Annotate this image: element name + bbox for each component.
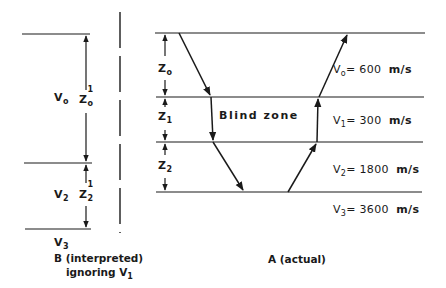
thickness-label-z2-prime: Z12 [79,188,94,203]
velocity-label-layer-3: V3= 3600 m/s [333,203,419,218]
velocity-label-v3: V3 [54,236,69,251]
blind-zone-label: Blind zone [219,109,299,122]
thickness-label-z0: Zo [158,62,172,77]
velocity-label-layer-0: Vo= 600 m/s [333,63,412,78]
velocity-label-layer-1: V1= 300 m/s [333,114,412,129]
caption-ignoring: ignoring V1 [66,265,133,284]
caption-actual: A (actual) [268,252,326,266]
caption-interpreted: B (interpreted) [54,251,143,265]
velocity-label-v0: Vo [54,91,69,106]
velocity-label-layer-2: V2= 1800 m/s [333,163,419,178]
velocity-label-v2: V2 [54,188,69,203]
thickness-label-z0-prime: Z1o [79,93,93,108]
thickness-label-z2: Z2 [158,159,173,174]
thickness-label-z1: Z1 [158,110,173,125]
